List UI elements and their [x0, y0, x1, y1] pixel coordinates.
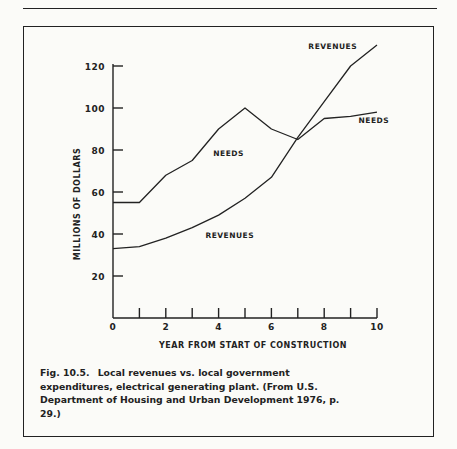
y-tick-label: 120 [85, 62, 105, 72]
series-revenues [113, 45, 377, 249]
figure-caption: Fig. 10.5. Local revenues vs. local gove… [40, 366, 340, 420]
x-tick-label: 2 [162, 322, 169, 332]
y-tick-label: 80 [91, 146, 105, 156]
y-tick-label: 100 [85, 104, 105, 114]
figure-label: Fig. 10.5. [40, 367, 89, 378]
x-tick-label: 10 [370, 322, 384, 332]
series-lines [113, 45, 377, 249]
y-tick-label: 60 [91, 188, 105, 198]
x-tick-label: 6 [268, 322, 275, 332]
series-label-revenues: REVENUES [308, 42, 357, 51]
x-axis-title: YEAR FROM START OF CONSTRUCTION [158, 341, 347, 350]
series-needs [113, 108, 377, 203]
series-label-needs: NEEDS [359, 116, 390, 125]
y-axis-title: MILLIONS OF DOLLARS [73, 148, 82, 260]
y-tick-label: 20 [91, 272, 105, 282]
chart-labels: NEEDSNEEDSREVENUESREVENUES [205, 42, 389, 240]
y-tick-label: 40 [91, 230, 105, 240]
x-tick-label: 8 [321, 322, 328, 332]
series-label-revenues: REVENUES [205, 231, 254, 240]
axes: 204060801001200246810YEAR FROM START OF … [73, 62, 384, 351]
series-label-needs: NEEDS [213, 149, 244, 158]
x-tick-label: 4 [215, 322, 222, 332]
x-tick-label: 0 [110, 322, 117, 332]
